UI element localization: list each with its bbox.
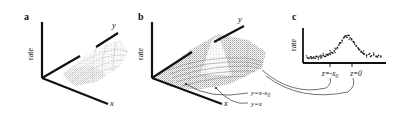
scatter-point: [341, 39, 343, 41]
scatter-point: [318, 57, 320, 59]
scatter-point: [344, 36, 345, 37]
panel-a-rate-label: rate: [26, 48, 35, 60]
panel-c-letter: c: [292, 11, 297, 22]
scatter-point: [380, 55, 381, 56]
scatter-point: [339, 42, 340, 43]
scatter-point: [311, 56, 312, 57]
scatter-point: [332, 52, 333, 53]
panel-b-rate-label: rate: [136, 48, 145, 60]
scatter-point: [327, 54, 328, 55]
scatter-point: [378, 55, 380, 57]
scatter-point: [307, 57, 309, 59]
panel-c-tick-label-2: z=0: [349, 69, 362, 78]
panel-b-callout-anchor-2: [215, 87, 217, 89]
panel-b-ridge-label-2-text: y=x: [250, 100, 263, 108]
scatter-point: [370, 56, 371, 57]
scatter-point: [369, 53, 370, 54]
scatter-point: [322, 55, 324, 57]
scatter-point: [308, 58, 309, 59]
scatter-point: [366, 56, 367, 57]
scatter-point: [338, 44, 340, 46]
scatter-point: [346, 35, 347, 36]
panel-c-tick-label-1-sub: 0: [336, 73, 339, 79]
scatter-point: [314, 57, 316, 59]
panel-b-ridge-label-2: y=x: [250, 100, 263, 108]
panel-c-tick-label-2-text: z=0: [349, 69, 362, 78]
scatter-point: [353, 42, 354, 43]
panel-a-x-label: x: [109, 98, 114, 108]
panel-c-rate-label: rate: [289, 39, 298, 51]
scatter-point: [373, 52, 374, 53]
scatter-point: [325, 54, 327, 56]
scatter-point: [349, 37, 351, 39]
scatter-point: [349, 35, 350, 36]
scatter-point: [330, 52, 332, 54]
scatter-point: [356, 45, 357, 46]
scatter-point: [320, 57, 321, 58]
scatter-point: [351, 38, 352, 39]
scatter-point: [377, 57, 378, 58]
scatter-point: [346, 36, 348, 38]
scatter-point: [333, 50, 335, 52]
scatter-point: [329, 50, 330, 51]
panel-b-ridge-label-1: y=x-x0: [250, 89, 270, 98]
scatter-point: [337, 48, 338, 49]
scatter-point: [315, 56, 316, 57]
scatter-point: [306, 55, 307, 56]
scatter-point: [318, 58, 319, 59]
scatter-point: [360, 52, 361, 53]
panel-b-x-label: x: [223, 98, 228, 108]
scatter-point: [341, 41, 342, 42]
scatter-point: [358, 48, 359, 49]
scatter-point: [354, 43, 356, 45]
scatter-point: [348, 39, 349, 40]
scatter-point: [313, 57, 314, 58]
scatter-point: [363, 53, 364, 54]
scatter-point: [363, 50, 364, 51]
panel-b-ridge-label-1-text: y=x-x: [250, 89, 268, 97]
panel-a-y-label: y: [111, 20, 116, 30]
scatter-point: [373, 54, 375, 56]
panel-b-y-label: y: [237, 14, 242, 24]
scatter-point: [334, 52, 335, 53]
panel-b-ridge-label-1-sub: 0: [267, 92, 270, 98]
scatter-point: [322, 53, 323, 54]
scatter-point: [334, 47, 335, 48]
scatter-point: [320, 55, 321, 56]
panel-a-letter: a: [24, 11, 29, 22]
scatter-point: [325, 56, 326, 57]
scatter-point: [366, 54, 368, 56]
scatter-point: [330, 54, 331, 55]
panel-b-letter: b: [138, 11, 144, 22]
figure-root: a rate y x: [0, 0, 394, 120]
panel-c-tick-label-1-text: z=-x: [321, 69, 336, 78]
panel-b-callout-anchor-1: [185, 83, 187, 85]
